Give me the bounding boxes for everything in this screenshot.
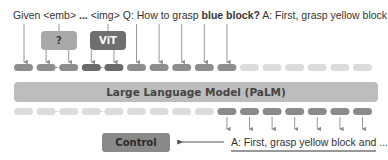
input-token-row: [14, 64, 372, 71]
prompt-text: Given <emb> ... <img> Q: How to grasp bl…: [13, 9, 388, 21]
token-faded: [240, 64, 259, 71]
token-faded: [195, 108, 214, 115]
token-faded: [104, 108, 123, 115]
token-faded: [308, 64, 327, 71]
token-faded: [353, 64, 372, 71]
token-output: [285, 108, 304, 115]
llm-label: Large Language Model (PaLM): [106, 86, 286, 98]
token-image: [82, 64, 101, 71]
prompt-segment: <img>: [91, 9, 120, 21]
control-block: Control: [102, 133, 170, 152]
token-output: [353, 108, 372, 115]
palm-e-diagram: Given <emb> ... <img> Q: How to grasp bl…: [0, 0, 388, 160]
token-faded: [285, 64, 304, 71]
token-faded: [150, 108, 169, 115]
token-image: [104, 64, 123, 71]
token-input: [195, 64, 214, 71]
prompt-segment: <emb>: [43, 9, 76, 21]
prompt-segment: Given: [13, 9, 43, 21]
token-faded: [82, 108, 101, 115]
token-faded: [263, 64, 282, 71]
token-input: [150, 64, 169, 71]
token-faded: [59, 108, 78, 115]
token-output: [330, 108, 349, 115]
token-faded: [330, 64, 349, 71]
token-faded: [14, 108, 33, 115]
token-input: [127, 64, 146, 71]
prompt-segment: ...: [76, 9, 91, 21]
output-token-row: [14, 108, 372, 115]
unknown-encoder: ?: [41, 31, 77, 50]
token-input: [59, 64, 78, 71]
token-faded: [37, 108, 56, 115]
prompt-segment: Q: How to grasp: [120, 9, 202, 21]
output-arrows: [227, 117, 363, 129]
vit-encoder-label: ViT: [99, 35, 117, 46]
token-output: [308, 108, 327, 115]
token-input: [37, 64, 56, 71]
llm-block: Large Language Model (PaLM): [14, 82, 378, 102]
token-faded: [172, 108, 191, 115]
prompt-segment: A: First, grasp yellow block: [260, 9, 388, 21]
vit-encoder: ViT: [90, 31, 126, 50]
token-input: [14, 64, 33, 71]
unknown-encoder-label: ?: [56, 35, 62, 46]
token-input: [217, 64, 236, 71]
output-text: A: First, grasp yellow block and ...: [231, 136, 388, 148]
prompt-segment: blue block?: [202, 9, 260, 21]
token-input: [172, 64, 191, 71]
control-label: Control: [115, 137, 156, 148]
token-output: [240, 108, 259, 115]
token-output: [263, 108, 282, 115]
token-output: [217, 108, 236, 115]
token-faded: [127, 108, 146, 115]
